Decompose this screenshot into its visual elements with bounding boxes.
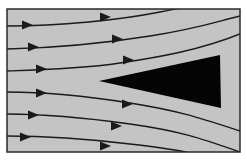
flow-diagram: [0, 0, 247, 160]
